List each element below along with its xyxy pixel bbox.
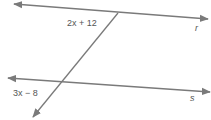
line-r [14, 4, 208, 19]
angle-bottom-label: 3x − 8 [13, 88, 38, 98]
line-s [8, 78, 210, 92]
line-r-label: r [195, 23, 199, 33]
line-s-label: s [190, 93, 195, 103]
transversal-line [33, 13, 118, 117]
angle-top-label: 2x + 12 [67, 18, 97, 28]
parallel-lines-diagram: 2x + 12 r 3x − 8 s [0, 0, 211, 120]
